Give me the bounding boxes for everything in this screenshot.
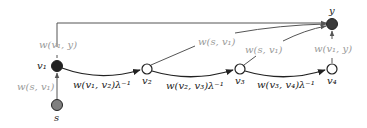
edge-label-v1-v2: w(v₁, v₂)λ⁻¹: [73, 80, 131, 90]
edge-label-v3-y: w(s, v₁): [245, 45, 283, 55]
edge-label-v3-v4: w(v₃, v₄)λ⁻¹: [257, 80, 315, 90]
node-y: [327, 19, 338, 30]
node-v2: [142, 64, 152, 74]
diagram-canvas: [0, 0, 367, 128]
edge-v3-v4: [245, 70, 325, 77]
edge-v2-y-a: [151, 46, 195, 65]
node-label-s: s: [54, 113, 59, 123]
edge-v3-y-b: [283, 26, 326, 41]
edge-label-v1-y: w(v₁, y): [39, 40, 77, 50]
node-label-v3: v₃: [235, 76, 245, 86]
edge-v1-v2: [62, 68, 140, 76]
edge-label-v4-y: w(v₁, y): [314, 44, 352, 54]
node-label-v4: v₄: [327, 76, 337, 86]
node-v1: [52, 61, 63, 72]
node-v4: [327, 64, 337, 74]
node-s: [52, 100, 63, 111]
edge-label-v2-v3: w(v₂, v₃)λ⁻¹: [166, 81, 224, 91]
edge-v3-y-a: [244, 56, 256, 65]
edge-label-v2-y: w(s, v₁): [198, 37, 236, 47]
edge-label-s-v1: w(s, v₁): [17, 82, 55, 92]
node-label-v1: v₁: [37, 61, 47, 71]
node-label-y: y: [329, 6, 335, 16]
edge-v2-v3: [152, 70, 233, 77]
edge-v2-y-b: [235, 24, 326, 33]
node-label-v2: v₂: [142, 76, 152, 86]
node-v3: [235, 64, 245, 74]
